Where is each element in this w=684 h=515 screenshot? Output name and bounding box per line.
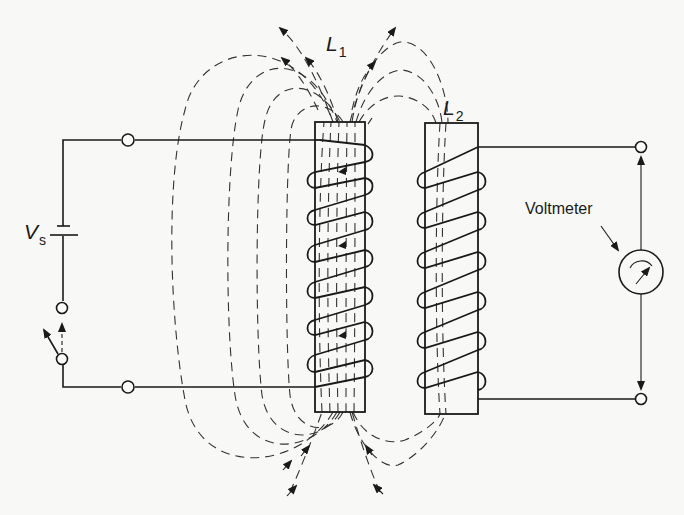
meter-circuit [478,142,663,405]
terminal-bottom-left [122,381,134,393]
coil-l1-label: L1 [326,32,346,56]
coil-l2 [418,123,486,414]
magnetic-field-lines [172,28,448,496]
coil-l1 [308,122,373,412]
source-circuit [44,134,315,393]
diagram-canvas [0,0,684,515]
battery-icon [50,226,78,235]
voltmeter-icon [619,250,663,294]
coil-l2-label: L2 [443,96,463,120]
source-label: Vs [24,220,46,244]
voltmeter-pointer-arrow [601,226,618,250]
switch-icon[interactable] [44,303,68,365]
terminal-bottom-right [636,394,647,405]
mutual-inductance-diagram: Vs L1 L2 Voltmeter [0,0,684,515]
terminal-top-left [122,134,134,146]
terminal-top-right [636,142,647,153]
voltmeter-label: Voltmeter [525,200,593,218]
